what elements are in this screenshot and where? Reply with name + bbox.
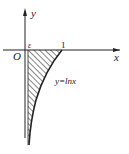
epsilon-tick-label: ε [28, 41, 32, 50]
shaded-region [26, 48, 66, 148]
one-tick-label: 1 [61, 40, 66, 50]
curve-label: y=lnx [54, 76, 76, 86]
ln-graph: y x O ε 1 y=lnx [0, 0, 129, 154]
y-axis-arrow-icon [23, 8, 27, 16]
x-axis-label: x [113, 51, 119, 63]
origin-label: O [13, 50, 21, 62]
y-axis [23, 8, 27, 138]
y-axis-label: y [30, 7, 36, 19]
